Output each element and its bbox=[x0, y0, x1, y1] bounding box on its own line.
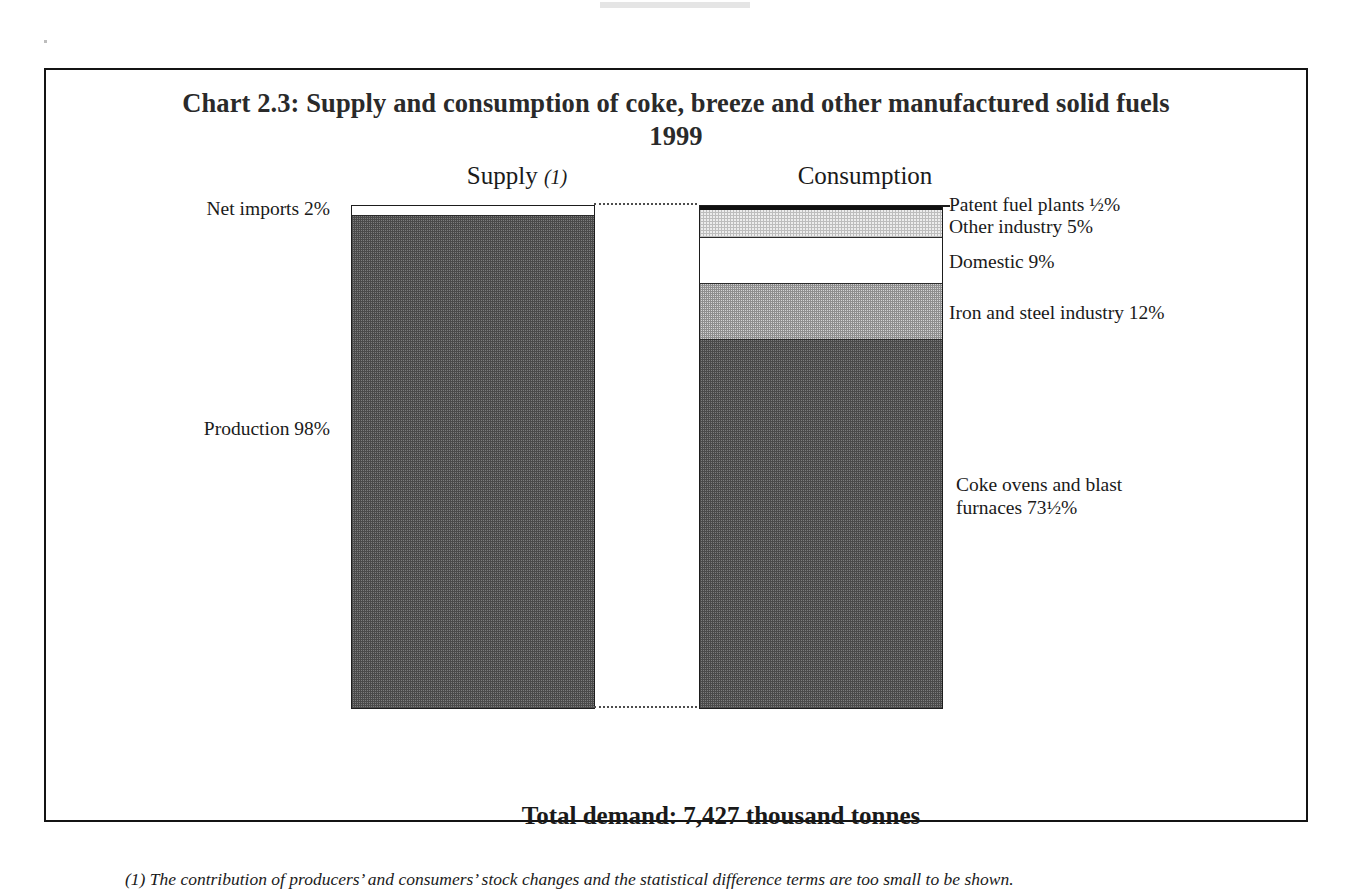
scan-artifact-top bbox=[600, 2, 750, 8]
bar-consumption bbox=[699, 205, 943, 709]
scan-artifact-left bbox=[44, 40, 47, 43]
label-other-industry: Other industry 5% bbox=[949, 215, 1093, 239]
label-iron-and-steel-industry: Iron and steel industry 12% bbox=[949, 301, 1165, 325]
segment-consumption-other-industry bbox=[699, 210, 943, 237]
chart-footnote: (1) The contribution of producers’ and c… bbox=[125, 869, 1014, 890]
total-demand-label: Total demand: 7,427 thousand tonnes bbox=[246, 802, 1196, 830]
segment-consumption-coke-ovens-and-blast-furnaces bbox=[699, 339, 943, 709]
connector-line-top bbox=[594, 203, 697, 205]
label-coke-ovens-and-blast-furnaces: Coke ovens and blast furnaces 73½% bbox=[956, 473, 1186, 519]
column-header-consumption: Consumption bbox=[743, 162, 987, 190]
chart-frame: Chart 2.3: Supply and consumption of cok… bbox=[44, 68, 1308, 822]
label-domestic: Domestic 9% bbox=[949, 250, 1055, 274]
chart-title-line-1: Chart 2.3: Supply and consumption of cok… bbox=[106, 87, 1246, 120]
column-header-supply-label: Supply bbox=[467, 162, 538, 189]
chart-title: Chart 2.3: Supply and consumption of cok… bbox=[106, 87, 1246, 153]
column-header-supply: Supply (1) bbox=[395, 162, 639, 190]
label-patent-fuel-plants: Patent fuel plants ½% bbox=[949, 193, 1120, 217]
label-production: Production 98% bbox=[90, 417, 330, 441]
segment-consumption-domestic bbox=[699, 237, 943, 283]
footnote-marker: (1) bbox=[544, 166, 567, 188]
bar-supply bbox=[351, 205, 595, 709]
segment-supply-production bbox=[351, 215, 595, 709]
label-net-imports: Net imports 2% bbox=[90, 197, 330, 221]
segment-consumption-iron-and-steel-industry bbox=[699, 283, 943, 339]
segment-supply-net-imports bbox=[351, 205, 595, 215]
chart-title-line-2: 1999 bbox=[106, 120, 1246, 153]
connector-line-bottom bbox=[594, 706, 697, 708]
